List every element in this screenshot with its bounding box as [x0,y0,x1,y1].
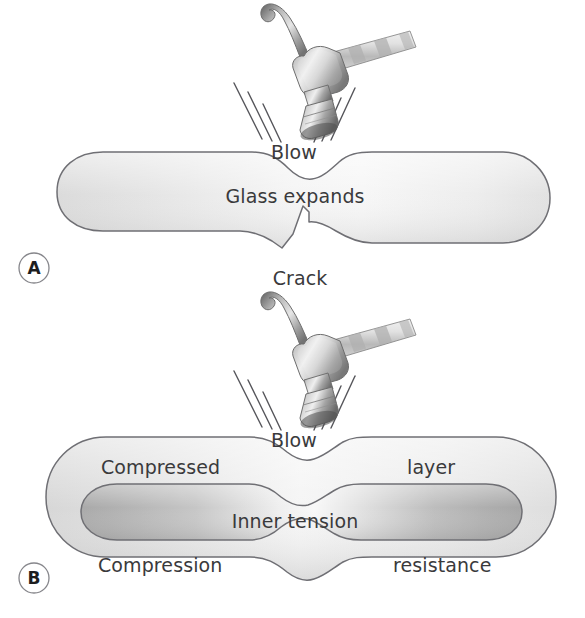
compression-label: Compression [98,554,222,576]
diagram-canvas: Blow Glass expands Crack A [0,0,585,618]
compressed-label: Compressed [101,456,220,478]
layer-label: layer [407,456,455,478]
panel-letter-a-text: A [27,258,41,278]
panel-letter-b-text: B [28,568,41,588]
resistance-label: resistance [393,554,491,576]
crack-label: Crack [273,267,328,289]
blow-label-a: Blow [271,141,317,163]
glass-expands-label: Glass expands [225,185,364,207]
inner-tension-label: Inner tension [232,510,359,532]
blow-label-b: Blow [271,429,317,451]
figure-root: Blow Glass expands Crack A [0,0,585,618]
